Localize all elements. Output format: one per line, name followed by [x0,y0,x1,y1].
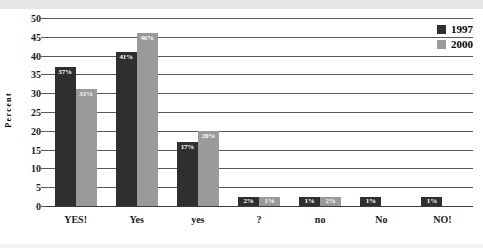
top-band [0,0,483,9]
bar-value-label: 1% [360,197,381,205]
y-tick-label: 25 [31,107,41,118]
bar-2000-yes[interactable]: 20% [198,131,219,206]
bar-value-label: 2% [320,197,341,205]
bar-value-label: 2% [238,197,259,205]
bar-group: 1% [351,18,412,206]
bottom-band [0,244,483,248]
legend-item-2000: 2000 [437,37,473,52]
y-tick-mark [41,206,45,207]
bar-1997-Yes[interactable]: 41% [116,52,137,206]
bar-group: 37%31% [45,18,106,206]
bar-value-label: 41% [116,53,137,61]
bar-value-label: 1% [259,197,280,205]
y-tick-label: 0 [36,201,41,212]
bar-value-label: 17% [177,143,198,151]
legend-label-1997: 1997 [451,22,473,37]
legend-item-1997: 1997 [437,22,473,37]
y-tick-label: 50 [31,13,41,24]
x-category-label-no: no [290,214,351,225]
bar-1997-?[interactable]: 2% [238,197,259,206]
y-axis-label: Percent [2,92,16,128]
bar-1997-No[interactable]: 1% [360,197,381,206]
y-tick-label: 15 [31,144,41,155]
gridline [45,206,473,207]
y-tick-label: 40 [31,50,41,61]
bar-value-label: 37% [55,68,76,76]
bar-group: 41%46% [106,18,167,206]
bar-value-label: 46% [137,34,158,42]
bar-1997-YES![interactable]: 37% [55,67,76,206]
y-tick-label: 20 [31,125,41,136]
x-category-label-NO!: NO! [412,214,473,225]
x-category-label-No: No [351,214,412,225]
x-category-label-YES!: YES! [45,214,106,225]
bar-1997-yes[interactable]: 17% [177,142,198,206]
y-tick-label: 30 [31,88,41,99]
bar-group: 17%20% [167,18,228,206]
plot-area: 50454035302520151050 37%31%41%46%17%20%2… [45,18,473,206]
legend-label-2000: 2000 [451,37,473,52]
bar-2000-Yes[interactable]: 46% [137,33,158,206]
y-tick-label: 35 [31,69,41,80]
chart-legend: 1997 2000 [437,22,473,52]
legend-swatch-2000-icon [437,40,446,49]
bar-groups: 37%31%41%46%17%20%2%1%1%2%1%1% [45,18,473,206]
x-category-label-yes: yes [167,214,228,225]
y-tick-label: 5 [36,182,41,193]
bar-group: 2%1% [228,18,289,206]
y-tick-label: 45 [31,31,41,42]
bar-value-label: 1% [299,197,320,205]
y-tick-label: 10 [31,163,41,174]
x-category-label-Yes: Yes [106,214,167,225]
bar-2000-YES![interactable]: 31% [76,89,97,206]
bar-group: 1%2% [290,18,351,206]
chart-page: Percent 50454035302520151050 37%31%41%46… [0,0,483,248]
bar-value-label: 1% [421,197,442,205]
bar-value-label: 20% [198,132,219,140]
x-category-label-?: ? [228,214,289,225]
legend-swatch-1997-icon [437,25,446,34]
bar-2000-?[interactable]: 1% [259,197,280,206]
bar-2000-no[interactable]: 2% [320,197,341,206]
bar-value-label: 31% [76,90,97,98]
bar-1997-no[interactable]: 1% [299,197,320,206]
bar-1997-NO![interactable]: 1% [421,197,442,206]
